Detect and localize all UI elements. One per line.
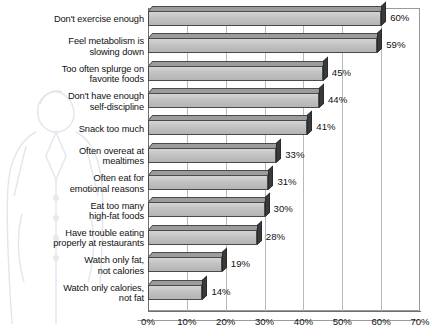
bar-top-face [148, 197, 269, 202]
bar-face [148, 148, 276, 163]
bar-side-face [307, 111, 312, 136]
bar-top-face [148, 33, 382, 38]
bar-face [148, 285, 202, 300]
bar-value-label: 30% [274, 203, 293, 214]
bar-top-face [148, 6, 386, 11]
bar-top-face [148, 252, 226, 257]
x-tick-label: 20% [206, 316, 246, 327]
category-label: Often overeat at mealtimes [0, 146, 144, 167]
category-label: Feel metabolism is slowing down [0, 36, 144, 57]
x-tick-label: 50% [322, 316, 362, 327]
bar-value-label: 59% [386, 39, 405, 50]
bar-value-label: 19% [231, 258, 250, 269]
bar-value-label: 60% [390, 12, 409, 23]
bar-side-face [268, 166, 273, 191]
x-tick-label: 40% [283, 316, 323, 327]
bar-value-label: 33% [285, 149, 304, 160]
category-label: Watch only calories, not fat [0, 283, 144, 304]
x-tick-label: 60% [361, 316, 401, 327]
bar-face [148, 257, 222, 272]
category-label: Have trouble eating properly at restaura… [0, 228, 144, 249]
bar-side-face [319, 84, 324, 109]
category-label: Eat too many high-fat foods [0, 201, 144, 222]
bar-top-face [148, 225, 261, 230]
bar [148, 11, 381, 26]
bar [148, 93, 319, 108]
bar [148, 202, 265, 217]
bar-face [148, 120, 307, 135]
bar [148, 230, 257, 245]
x-tick-label: 30% [245, 316, 285, 327]
bar-top-face [148, 61, 327, 66]
category-label: Often eat for emotional reasons [0, 173, 144, 194]
bar-value-label: 14% [211, 286, 230, 297]
x-tick-label: 70% [400, 316, 432, 327]
bar [148, 175, 268, 190]
bar [148, 120, 307, 135]
bar-face [148, 230, 257, 245]
category-label: Too often splurge on favorite foods [0, 64, 144, 85]
bar-row: Watch only calories, not fat14% [0, 285, 432, 312]
bar-side-face [257, 220, 262, 245]
bar-side-face [323, 56, 328, 81]
bar-side-face [276, 138, 281, 163]
bar-side-face [377, 29, 382, 54]
bar-value-label: 45% [332, 67, 351, 78]
bar-face [148, 93, 319, 108]
bar [148, 148, 276, 163]
bar-side-face [381, 1, 386, 26]
bar-top-face [148, 280, 207, 285]
bar-face [148, 11, 381, 26]
bar [148, 66, 323, 81]
bar-chart: Don't exercise enough60%Feel metabolism … [0, 0, 432, 336]
category-label: Don't exercise enough [0, 14, 144, 24]
bar-side-face [265, 193, 270, 218]
bar [148, 38, 377, 53]
bar-value-label: 28% [266, 231, 285, 242]
bar-top-face [148, 115, 312, 120]
bar-top-face [148, 143, 281, 148]
bar-top-face [148, 170, 273, 175]
bar-top-face [148, 88, 323, 93]
category-label: Watch only fat, not calories [0, 255, 144, 276]
bar-value-label: 31% [277, 176, 296, 187]
bar-side-face [222, 248, 227, 273]
x-tick-label: 10% [167, 316, 207, 327]
chart-title [0, 0, 432, 4]
category-label: Don't have enough self-discipline [0, 91, 144, 112]
bar-row: Watch only fat, not calories19% [0, 257, 432, 284]
bar [148, 257, 222, 272]
bar-value-label: 44% [328, 94, 347, 105]
bar-face [148, 38, 377, 53]
category-label: Snack too much [0, 124, 144, 134]
bar [148, 285, 202, 300]
bar-face [148, 175, 268, 190]
bar-side-face [202, 275, 207, 300]
bar-face [148, 66, 323, 81]
bar-value-label: 41% [316, 121, 335, 132]
bar-face [148, 202, 265, 217]
x-tick-label: 0% [128, 316, 168, 327]
